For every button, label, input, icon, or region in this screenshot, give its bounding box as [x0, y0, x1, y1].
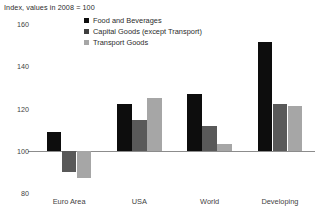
- legend-swatch-icon: [84, 29, 89, 34]
- bar: [258, 42, 273, 151]
- bar-group: [258, 24, 303, 193]
- x-axis-category-label: Euro Area: [53, 197, 86, 206]
- chart-subtitle: Index, values in 2008 = 100: [4, 3, 95, 12]
- legend-item-capital-goods: Capital Goods (except Transport): [84, 26, 202, 37]
- bar: [187, 94, 202, 151]
- bar-group: [187, 24, 232, 193]
- legend-item-food-and-beverages: Food and Beverages: [84, 15, 202, 26]
- bar: [62, 151, 77, 172]
- bar: [202, 126, 217, 150]
- bar: [117, 104, 132, 150]
- plot-area: 16014012010080: [34, 24, 315, 193]
- legend-label: Capital Goods (except Transport): [93, 27, 202, 36]
- bar: [132, 120, 147, 151]
- y-axis-tick-label: 140: [17, 62, 29, 71]
- legend-swatch-icon: [84, 40, 89, 45]
- bar-group: [47, 24, 92, 193]
- y-axis-tick-label: 100: [17, 146, 29, 155]
- x-axis-category-label: Developing: [261, 197, 298, 206]
- bar: [273, 104, 288, 150]
- x-axis-category-label: World: [200, 197, 219, 206]
- legend-item-transport-goods: Transport Goods: [84, 37, 202, 48]
- chart-legend: Food and Beverages Capital Goods (except…: [84, 15, 202, 48]
- y-axis-tick-label: 80: [21, 189, 29, 198]
- bar-group: [117, 24, 162, 193]
- bar: [217, 144, 232, 150]
- y-axis-tick-label: 160: [17, 20, 29, 29]
- y-axis-tick-label: 120: [17, 104, 29, 113]
- bar: [47, 132, 62, 151]
- legend-swatch-icon: [84, 18, 89, 23]
- legend-label: Transport Goods: [93, 38, 148, 47]
- x-axis-category-label: USA: [132, 197, 147, 206]
- bar: [288, 106, 303, 150]
- bar: [147, 98, 162, 151]
- bar-chart: Index, values in 2008 = 100 160140120100…: [0, 0, 319, 212]
- legend-label: Food and Beverages: [93, 16, 162, 25]
- bar: [77, 151, 92, 178]
